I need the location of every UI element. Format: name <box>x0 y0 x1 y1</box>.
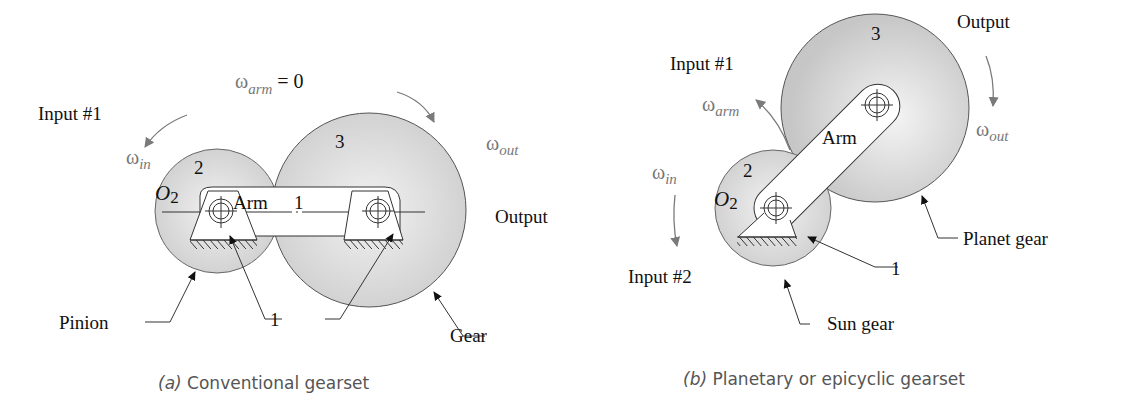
gear-label: Gear <box>450 325 488 346</box>
input-rotation-arrow-b <box>674 195 677 246</box>
panel-conventional-gearset: ωarm = 0 Input #1 ωin ωout Output 2 3 O2… <box>38 70 549 393</box>
arm-label-b: Arm <box>822 127 857 148</box>
panel-planetary-gearset: Output 3 Input #1 ωarm Arm ωout ωin 2 O2… <box>628 11 1049 389</box>
pinion-number: 2 <box>194 157 204 178</box>
planet-label: Planet gear <box>963 228 1049 249</box>
svg-text:ωout: ωout <box>486 132 519 158</box>
arm-label: Arm <box>233 192 268 213</box>
sun-label: Sun gear <box>827 313 895 334</box>
ground-leader-b <box>808 237 898 267</box>
planet-number: 3 <box>871 23 881 44</box>
output-label-b: Output <box>957 11 1011 32</box>
pinion-label: Pinion <box>59 312 109 333</box>
input1-label: Input #1 <box>670 53 734 74</box>
ground-number-b: 1 <box>891 258 901 279</box>
svg-text:ωarm: ωarm <box>702 93 740 119</box>
svg-text:ωout: ωout <box>976 118 1009 144</box>
output-rotation-arrow <box>397 92 434 122</box>
svg-text:ωin: ωin <box>126 146 151 172</box>
input-label: Input #1 <box>38 103 102 124</box>
pinion-leader <box>145 272 195 322</box>
output-rotation-arrow-b <box>986 56 993 106</box>
input-rotation-arrow <box>145 115 187 147</box>
svg-text:ωin: ωin <box>652 161 677 187</box>
svg-text:(a) Conventional gearset: (a) Conventional gearset <box>158 373 370 393</box>
caption-b: Planetary or epicyclic gearset <box>712 369 965 389</box>
sun-number: 2 <box>743 160 753 181</box>
input2-label: Input #2 <box>628 266 692 287</box>
arm-number: 1 <box>294 192 304 213</box>
gear-number: 3 <box>335 131 345 152</box>
sun-leader <box>785 280 810 324</box>
svg-text:ωarm = 0: ωarm = 0 <box>235 70 304 97</box>
ground-number: 1 <box>270 309 280 330</box>
planet-leader <box>922 196 958 238</box>
caption-a: Conventional gearset <box>187 373 369 393</box>
output-label: Output <box>495 206 549 227</box>
svg-text:(b) Planetary or epicyclic gea: (b) Planetary or epicyclic gearset <box>683 369 965 389</box>
